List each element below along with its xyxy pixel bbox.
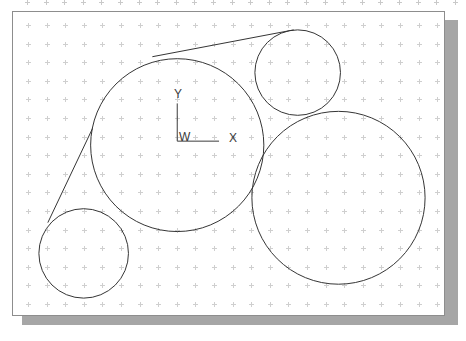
- grid-dot: [155, 0, 160, 5]
- grid-dot: [323, 0, 328, 5]
- grid-dot: [81, 0, 86, 5]
- ucs-label-layer: Y W X: [13, 12, 444, 315]
- grid-dot: [416, 0, 421, 5]
- grid-dot: [99, 0, 104, 5]
- grid-dot: [25, 0, 30, 5]
- ucs-origin-label: W: [179, 131, 190, 143]
- grid-dot: [62, 0, 67, 5]
- grid-dot: [341, 0, 346, 5]
- grid-dot: [397, 0, 402, 5]
- clipped-grid-artifact-row: [0, 0, 466, 9]
- grid-dot: [192, 0, 197, 5]
- grid-dot: [267, 0, 272, 5]
- grid-dot: [174, 0, 179, 5]
- grid-dot: [137, 0, 142, 5]
- grid-dot: [378, 0, 383, 5]
- grid-dot: [285, 0, 290, 5]
- grid-dot: [230, 0, 235, 5]
- grid-dot: [434, 0, 439, 5]
- grid-dot: [248, 0, 253, 5]
- grid-dot: [304, 0, 309, 5]
- grid-dot: [360, 0, 365, 5]
- ucs-y-label: Y: [174, 88, 182, 100]
- ucs-x-label: X: [229, 132, 237, 144]
- drawing-canvas[interactable]: Y W X: [12, 11, 445, 316]
- cad-drawing-window: Y W X: [0, 0, 466, 341]
- grid-dot: [118, 0, 123, 5]
- grid-dot: [211, 0, 216, 5]
- grid-dot: [44, 0, 49, 5]
- grid-dot: [453, 0, 458, 5]
